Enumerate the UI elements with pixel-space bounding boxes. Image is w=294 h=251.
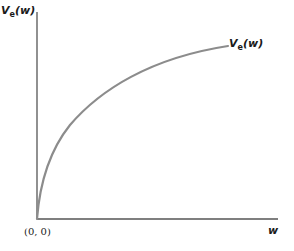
value-curve: [37, 46, 228, 219]
y-axis-label-rest: (w): [15, 4, 35, 17]
y-axis-label: Ve(w): [1, 4, 35, 19]
curve-label: Ve(w): [229, 37, 263, 52]
origin-label: (0, 0): [24, 226, 51, 237]
curve-label-main: V: [229, 37, 238, 50]
x-axis-label: w: [268, 224, 278, 237]
y-axis-label-main: V: [1, 4, 10, 17]
curve-label-rest: (w): [243, 37, 263, 50]
